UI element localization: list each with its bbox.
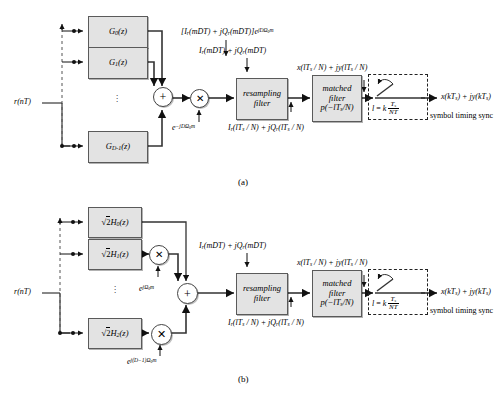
resampling-filter-b[interactable]: resampling filter	[236, 273, 288, 315]
multiplier-b2-symbol: ✕	[152, 325, 171, 344]
resampling-filter-b-line2: filter	[254, 294, 271, 304]
output-label-b: x(kTs) + jy(kTs)	[441, 288, 491, 297]
sampler-rate-label-b: l = k TsNT	[372, 296, 399, 312]
filter-block-h2[interactable]: √2H2(z)	[88, 318, 142, 349]
adder-b-symbol: +	[178, 284, 197, 303]
filter-block-h0[interactable]: √2H0(z)	[88, 207, 142, 238]
caption-b: (b)	[238, 374, 249, 384]
filter-block-h0-label: √2H0(z)	[101, 218, 128, 228]
filter-block-h2-label: √2H2(z)	[101, 329, 128, 339]
signal-label-b-matched-out: x(lTs / N) + jy(lTs / N)	[297, 259, 367, 268]
figure-root: r(nT) G0(z) G1(z) GD-1(z) ... + ✕ e−jDΩ0…	[0, 0, 498, 397]
sync-caption-b: symbol timing sync	[430, 307, 493, 315]
ellipsis-b: ...	[105, 283, 125, 292]
filter-block-h1-label: √2H1(z)	[101, 250, 128, 260]
bus-node-b	[58, 331, 62, 335]
filter-block-h1[interactable]: √2H1(z)	[88, 239, 142, 270]
tap-node-b0	[71, 220, 75, 224]
tap-node-b1	[71, 252, 75, 256]
adder-b: +	[177, 283, 198, 304]
tap-node-b2	[71, 331, 75, 335]
multiplier-b1: ✕	[149, 245, 169, 265]
signal-label-b-resampler-in: Ir(mDT) + jQr(mDT)	[199, 242, 266, 251]
multiplier-b2: ✕	[151, 324, 172, 345]
oscillator-label-b1: ejΩ0m	[139, 285, 154, 294]
signal-label-b-resampler-out: Ir(lTs / N) + jQr(lTs / N)	[228, 319, 304, 328]
matched-filter-b-line3: p(−lTs/N)	[320, 298, 353, 308]
matched-filter-b[interactable]: matched filter p(−lTs/N)	[312, 270, 362, 317]
diagram-b-wires	[0, 0, 498, 397]
oscillator-label-b2: ej(D−1)Ω0m	[127, 358, 156, 367]
multiplier-b1-symbol: ✕	[150, 246, 168, 264]
input-label-b: r(nT)	[14, 288, 31, 296]
